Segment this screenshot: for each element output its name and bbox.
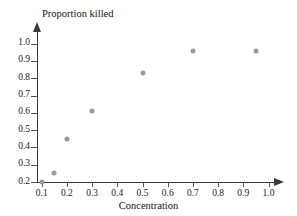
y-tick-label: 0.3 xyxy=(6,158,30,168)
x-axis-arrow-icon xyxy=(274,178,284,186)
scatter-plot-figure: Proportion killed 0.10.20.30.40.50.60.70… xyxy=(0,0,297,216)
y-tick-mark xyxy=(31,44,37,45)
y-tick-mark xyxy=(31,96,37,97)
x-tick-mark xyxy=(143,182,144,187)
x-tick-label: 0.9 xyxy=(230,188,256,198)
x-tick-label: 1.0 xyxy=(256,188,282,198)
x-tick-label: 0.6 xyxy=(155,188,181,198)
y-tick-mark xyxy=(31,147,37,148)
y-tick-label: 0.9 xyxy=(6,54,30,64)
y-tick-label: 0.8 xyxy=(6,72,30,82)
y-tick-label: 0.6 xyxy=(6,106,30,116)
y-tick-mark xyxy=(31,182,37,183)
data-point xyxy=(140,71,145,76)
x-tick-label: 0.1 xyxy=(29,188,55,198)
data-point xyxy=(64,136,69,141)
x-tick-mark xyxy=(269,182,270,187)
x-axis-line xyxy=(32,182,276,183)
data-point xyxy=(253,48,258,53)
data-point xyxy=(39,180,44,185)
y-tick-label: 0.7 xyxy=(6,89,30,99)
x-tick-mark xyxy=(243,182,244,187)
x-tick-label: 0.7 xyxy=(180,188,206,198)
x-axis-title: Concentration xyxy=(0,200,297,211)
y-tick-label: 1.0 xyxy=(6,37,30,47)
x-tick-mark xyxy=(92,182,93,187)
data-point xyxy=(52,171,57,176)
x-tick-mark xyxy=(117,182,118,187)
page-top-margin xyxy=(0,0,297,3)
y-tick-mark xyxy=(31,130,37,131)
y-axis-line xyxy=(37,31,38,182)
x-tick-label: 0.5 xyxy=(130,188,156,198)
data-point xyxy=(90,109,95,114)
y-tick-label: 0.2 xyxy=(6,176,30,186)
y-axis-title: Proportion killed xyxy=(42,8,113,19)
x-tick-mark xyxy=(193,182,194,187)
x-tick-mark xyxy=(67,182,68,187)
x-tick-label: 0.8 xyxy=(205,188,231,198)
x-tick-label: 0.4 xyxy=(104,188,130,198)
x-tick-label: 0.2 xyxy=(54,188,80,198)
x-tick-label: 0.3 xyxy=(79,188,105,198)
data-point xyxy=(190,48,195,53)
x-tick-mark xyxy=(168,182,169,187)
y-tick-mark xyxy=(31,165,37,166)
y-tick-mark xyxy=(31,78,37,79)
y-tick-mark xyxy=(31,61,37,62)
y-axis-arrow-icon xyxy=(33,22,41,32)
y-tick-mark xyxy=(31,113,37,114)
x-tick-mark xyxy=(218,182,219,187)
y-tick-label: 0.5 xyxy=(6,124,30,134)
y-tick-label: 0.4 xyxy=(6,141,30,151)
